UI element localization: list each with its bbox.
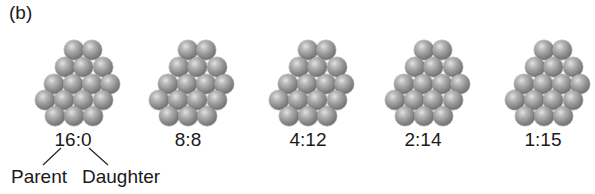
daughter-label: Daughter xyxy=(82,166,160,188)
parent-pointer-line xyxy=(43,148,61,165)
daughter-pointer-line xyxy=(89,148,108,165)
parent-label: Parent xyxy=(11,166,67,188)
